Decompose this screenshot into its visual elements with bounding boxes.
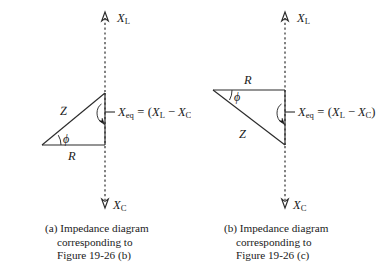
phi-angle-arc (230, 90, 233, 100)
equation-xeq: Xeq=(XL−XC) (297, 105, 376, 120)
xeq-curved-arrowhead (99, 118, 104, 124)
impedance-side-Z (42, 93, 105, 145)
label-phi: ϕ (234, 90, 240, 104)
axis-down-arrowhead (102, 199, 109, 208)
panel-a-drawing: XL XC Z R ϕ Xeq=(XL−XC) (0, 0, 191, 222)
label-Z: Z (60, 104, 68, 118)
phi-angle-arc (58, 135, 61, 145)
impedance-diagram-figure: XL XC Z R ϕ Xeq=(XL−XC) (a) Impedance di… (0, 0, 383, 277)
axis-label-XL: XL (116, 11, 130, 26)
caption-line-1: (b) Impedance diagram (224, 222, 383, 236)
xeq-curved-arrowhead (279, 118, 284, 124)
panel-b-caption: (b) Impedance diagram corresponding to F… (192, 222, 383, 263)
label-R: R (243, 73, 252, 87)
label-phi: ϕ (63, 132, 69, 146)
impedance-side-Z (213, 90, 285, 145)
caption-line-2: corresponding to (224, 236, 383, 250)
impedance-diagram-panel-b: XL XC R Z ϕ Xeq=(XL−XC) (b) Impedance di… (192, 0, 383, 277)
axis-down-arrowhead (282, 199, 289, 208)
equation-xeq: Xeq=(XL−XC) (117, 105, 191, 120)
impedance-diagram-panel-a: XL XC Z R ϕ Xeq=(XL−XC) (a) Impedance di… (0, 0, 191, 277)
caption-line-3: Figure 19-26 (c) (224, 249, 383, 263)
axis-label-XL: XL (296, 11, 310, 26)
label-R: R (67, 149, 76, 163)
axis-label-XC: XC (112, 198, 127, 213)
xeq-curved-arrow (97, 104, 102, 123)
panel-b-drawing: XL XC R Z ϕ Xeq=(XL−XC) (192, 0, 383, 222)
label-Z: Z (239, 127, 247, 141)
axis-label-XC: XC (292, 198, 307, 213)
xeq-curved-arrow (277, 104, 282, 123)
